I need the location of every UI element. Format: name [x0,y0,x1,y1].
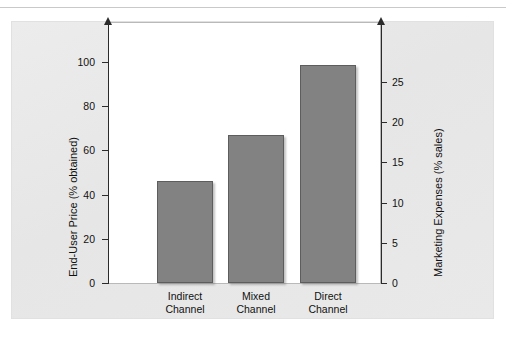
bar [157,181,213,283]
left-axis-arrow-icon [104,17,112,25]
running-head-text: PRICING AND PROFITABILITY ACROSS DISTRIB… [52,0,343,2]
category-label-line: Direct [285,290,371,303]
left-axis-line [108,24,109,284]
bar [300,65,356,283]
left-axis-tick-label: 40 [83,190,95,201]
left-axis-tick [102,195,108,196]
right-axis-tick [381,122,387,123]
right-axis-line [381,24,382,284]
left-axis-tick-label: 0 [89,278,95,289]
right-axis-tick [381,283,387,284]
right-axis-tick-label: 0 [392,278,398,289]
left-axis-tick-label: 80 [83,101,95,112]
left-axis-tick [102,283,108,284]
right-axis-tick-label: 10 [392,198,404,209]
right-axis-tick-label: 20 [392,117,404,128]
right-axis-tick-label: 15 [392,157,404,168]
right-axis-tick [381,162,387,163]
header-rule [0,7,506,8]
left-axis-tick [102,239,108,240]
right-axis-arrow-icon [377,17,385,25]
left-axis-tick-label: 60 [83,145,95,156]
right-axis-tick-label: 5 [392,238,398,249]
right-axis-title: Marketing Expenses (% sales) [432,128,444,277]
category-label-line: Channel [285,303,371,316]
right-axis-tick [381,243,387,244]
left-axis-tick-label: 100 [77,57,95,68]
left-axis-tick [102,62,108,63]
left-axis-title: End-User Price (% obtained) [67,137,79,277]
right-axis-tick [381,203,387,204]
right-axis-tick [381,82,387,83]
left-axis-tick [102,150,108,151]
category-label: DirectChannel [285,290,371,315]
bar [228,135,284,283]
left-axis-tick-label: 20 [83,234,95,245]
left-axis-tick [102,106,108,107]
right-axis-tick-label: 25 [392,77,404,88]
